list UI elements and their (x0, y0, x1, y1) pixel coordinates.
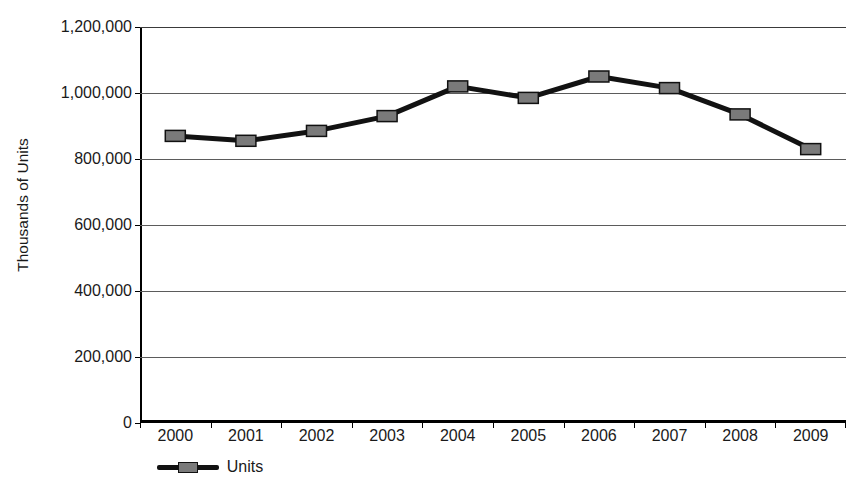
data-point-marker (236, 135, 256, 146)
legend-swatch-units (157, 459, 219, 475)
x-tick-label: 2007 (635, 427, 705, 445)
x-tick-label: 2002 (282, 427, 352, 445)
chart-legend: Units (0, 458, 420, 476)
x-tick-label: 2006 (564, 427, 634, 445)
x-axis-tick-labels: 2000200120022003200420052006200720082009 (140, 427, 846, 457)
series-units (140, 27, 846, 423)
series-line-units (175, 77, 810, 150)
y-tick-label: 200,000 (20, 349, 132, 365)
data-point-marker (660, 83, 680, 94)
line-chart: Thousands of Units 0200,000400,000600,00… (0, 0, 860, 491)
y-axis-tick-labels: 0200,000400,000600,000800,0001,000,0001,… (20, 0, 132, 491)
x-tick-label: 2008 (705, 427, 775, 445)
x-tick-label: 2004 (423, 427, 493, 445)
y-tick-label: 600,000 (20, 217, 132, 233)
x-tick-label: 2003 (352, 427, 422, 445)
y-tick-label: 0 (20, 415, 132, 431)
data-point-marker (730, 109, 750, 120)
legend-label-units: Units (227, 458, 263, 476)
legend-square-marker-icon (178, 462, 198, 473)
data-point-marker (307, 125, 327, 136)
series-markers-units (165, 71, 820, 155)
data-point-marker (801, 144, 821, 155)
y-tick-label: 400,000 (20, 283, 132, 299)
x-tick-label: 2009 (776, 427, 846, 445)
data-point-marker (165, 130, 185, 141)
y-tick-label: 800,000 (20, 151, 132, 167)
data-point-marker (377, 111, 397, 122)
y-tick-label: 1,000,000 (20, 85, 132, 101)
x-tick-label: 2005 (493, 427, 563, 445)
data-point-marker (518, 92, 538, 103)
x-tick-label: 2000 (140, 427, 210, 445)
x-tick-label: 2001 (211, 427, 281, 445)
data-point-marker (448, 81, 468, 92)
y-tick-label: 1,200,000 (20, 19, 132, 35)
data-point-marker (589, 71, 609, 82)
plot-area (140, 27, 846, 423)
